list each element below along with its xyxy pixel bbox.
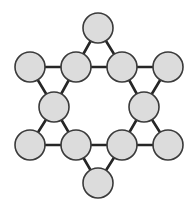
- node-lower-left-inner: [61, 130, 91, 160]
- node-middle-right: [129, 92, 159, 122]
- node-upper-right-inner: [107, 52, 137, 82]
- node-lower-right-outer: [153, 130, 183, 160]
- node-middle-left: [39, 92, 69, 122]
- node-upper-left-inner: [61, 52, 91, 82]
- hexagram-graph-diagram: [0, 0, 193, 208]
- node-lower-left-outer: [15, 130, 45, 160]
- node-lower-right-inner: [107, 130, 137, 160]
- node-top: [83, 13, 113, 43]
- node-bottom: [83, 168, 113, 198]
- node-upper-right-outer: [153, 52, 183, 82]
- node-upper-left-outer: [15, 52, 45, 82]
